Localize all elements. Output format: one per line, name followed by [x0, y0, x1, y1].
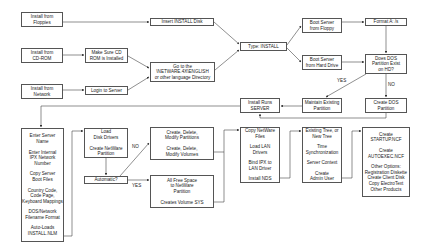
node-login-to-server: Login to Server: [85, 86, 128, 95]
edge-label-yes-automatic: YES: [132, 183, 141, 188]
node-text: Number: [34, 161, 50, 167]
node-text: Type: INSTALL: [248, 44, 279, 50]
node-boot-from-hard-drive: Boot Server from Hard Drive: [302, 55, 342, 70]
node-install-from-floppies: Install from Floppies: [21, 12, 63, 27]
node-text: Modify Partitions: [165, 135, 199, 141]
node-text: Boot Files: [32, 177, 52, 183]
node-text: Synchronization: [306, 150, 339, 156]
node-text: Partition: [314, 106, 331, 112]
node-text: LAN Driver: [249, 166, 271, 172]
node-text: Files: [255, 134, 265, 140]
node-install-from-cdrom: Install from CD-ROM: [21, 48, 63, 63]
node-text: Disk Drivers: [94, 135, 119, 141]
node-text: Format A: /s: [374, 19, 399, 25]
node-text: Modify Volumes: [166, 152, 198, 158]
node-text: New Tree: [312, 134, 332, 140]
node-create-startup-ncf: Create STARTUP.NCF Create AUTOEXEC.NCF O…: [362, 127, 410, 197]
node-enter-server-info: Enter Server Name Enter Internal IPX Net…: [21, 128, 64, 242]
connector-lines: [0, 0, 428, 251]
node-text: Floppies: [33, 20, 50, 26]
node-text: Keyboard Mappings: [22, 199, 63, 205]
install-flowchart: Install from Floppies Install from CD-RO…: [0, 0, 428, 251]
node-text: Insert INSTALL Disk: [161, 19, 202, 25]
node-all-free-space: All Free Space to NetWare Partition Crea…: [150, 175, 214, 208]
node-text: Drivers: [253, 150, 268, 156]
node-text: SERVER: [251, 106, 270, 112]
node-make-sure-cdrom: Make Sure CD ROM is Installed: [85, 48, 128, 63]
node-text: Automatic?: [95, 177, 118, 183]
node-text: Filename Format: [25, 215, 60, 221]
node-create-modify-partitions: Create, Delete, Modify Partitions Create…: [150, 127, 214, 160]
node-automatic-decision: Automatic?: [84, 176, 128, 184]
edge-label-no-dos: NO: [388, 82, 395, 87]
node-text: AUTOEXEC.NCF: [368, 154, 404, 160]
node-text: Login to Server: [91, 88, 122, 94]
node-install-runs-server: Install Runs SERVER: [240, 98, 280, 113]
edge-label-no-automatic: NO: [132, 144, 139, 149]
node-load-disk-drivers: Load Disk Drivers Create NetWare Partiti…: [84, 128, 128, 158]
node-maintain-existing-partition: Maintain Existing Partition: [302, 98, 342, 113]
node-install-from-network: Install from Network: [21, 84, 63, 99]
node-text: Admin User: [310, 176, 334, 182]
node-text: Name: [36, 139, 48, 145]
node-nds-tree-setup: Existing Tree, or New Tree Time Synchron…: [302, 127, 342, 183]
edge-label-yes-dos: YES: [337, 78, 346, 83]
node-text: Partition: [378, 106, 395, 112]
node-dos-partition-exist: Does DOS Partition Exist on HD?: [365, 54, 407, 74]
node-text: Partition: [98, 151, 115, 157]
node-text: Install NDS: [249, 176, 272, 182]
node-text: Partition: [174, 189, 191, 195]
node-text: STARTUP.NCF: [370, 137, 401, 143]
node-text: Server Context: [307, 160, 338, 166]
node-text: ROM is Installed: [90, 56, 124, 62]
node-text: from Floppy: [310, 26, 334, 32]
node-format-a: Format A: /s: [365, 18, 407, 26]
node-type-install: Type: INSTALL: [240, 42, 287, 51]
node-text: on HD?: [378, 67, 394, 73]
node-text: or other language Directory: [155, 75, 211, 81]
node-text: Creates Volume SYS: [160, 200, 203, 206]
node-copy-netware-files: Copy NetWare Files Load LAN Drivers Bind…: [240, 127, 280, 183]
node-text: from Hard Drive: [306, 63, 338, 69]
node-text: Network: [34, 92, 51, 98]
node-goto-netware-dir: Go to the \NETWARE.4X\ENGLISH or other l…: [150, 62, 215, 82]
node-create-dos-partition: Create DOS Partition: [365, 98, 407, 113]
node-text: Other Products: [371, 187, 402, 193]
node-boot-from-floppy: Boot Server from Floppy: [302, 18, 342, 33]
node-text: INSTALL.NLM: [28, 231, 57, 237]
node-insert-install-disk: Insert INSTALL Disk: [150, 18, 214, 26]
node-text: CD-ROM: [33, 56, 52, 62]
